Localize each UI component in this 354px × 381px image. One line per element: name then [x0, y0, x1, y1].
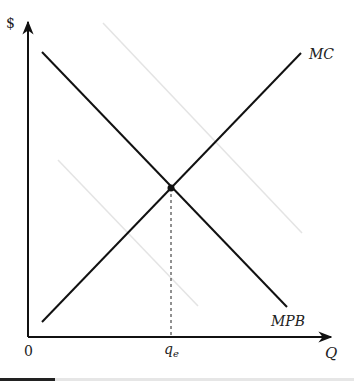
faint-line-upper [103, 23, 302, 233]
mpb-label: MPB [270, 313, 305, 329]
y-axis-label: $ [6, 15, 15, 31]
x-axis-label: Q [325, 344, 337, 362]
equilibrium-q: q [164, 341, 173, 357]
equilibrium-point [168, 185, 175, 192]
mc-label: MC [308, 46, 334, 62]
origin-label: 0 [24, 343, 33, 359]
economics-diagram: $ 0 Q MC MPB qe [0, 0, 354, 381]
equilibrium-subscript: e [173, 348, 179, 359]
mpb-curve [42, 52, 287, 307]
equilibrium-quantity-label: qe [164, 341, 179, 359]
